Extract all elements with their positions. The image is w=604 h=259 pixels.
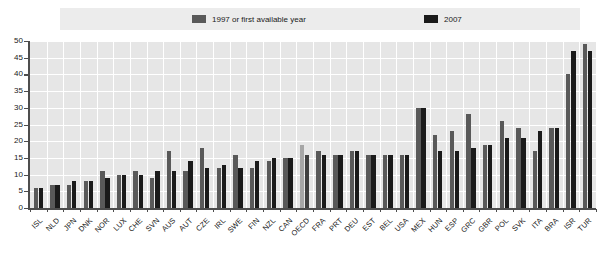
bar: [105, 178, 109, 208]
bar: [183, 171, 187, 208]
x-axis-label: ISL: [30, 216, 45, 231]
bar-group: [97, 41, 114, 208]
x-axis-label: DNK: [77, 216, 95, 234]
x-axis-label: SVK: [510, 216, 527, 233]
x-axis-tick-mark: [47, 209, 48, 212]
bar-group: [246, 41, 263, 208]
x-axis-label: HUN: [426, 216, 444, 234]
x-axis-label: TUR: [576, 216, 593, 233]
x-axis-tick-mark: [97, 209, 98, 212]
x-axis-label-cell: DEU: [346, 214, 363, 259]
y-axis-tick-mark: [24, 158, 28, 159]
y-axis-tick-mark: [24, 191, 28, 192]
bar: [117, 175, 121, 208]
bar: [305, 155, 309, 208]
bar: [89, 181, 93, 208]
bar: [388, 155, 392, 208]
x-axis-tick-mark: [446, 209, 447, 212]
y-axis-tick-mark: [24, 74, 28, 75]
bar-group: [30, 41, 47, 208]
legend-swatch-2007-icon: [424, 15, 438, 23]
bar: [34, 188, 38, 208]
x-axis-label: BRA: [543, 216, 560, 233]
bar: [255, 161, 259, 208]
bar-group: [396, 41, 413, 208]
bar-group: [47, 41, 64, 208]
x-axis-label-cell: BEL: [379, 214, 396, 259]
y-axis-tick-label: 5: [1, 187, 23, 195]
bar-group: [429, 41, 446, 208]
x-axis-label: AUT: [177, 216, 194, 233]
x-axis-tick-mark: [180, 209, 181, 212]
x-axis-label-cell: CHE: [130, 214, 147, 259]
bar-group: [296, 41, 313, 208]
x-axis-label-cell: NZL: [263, 214, 280, 259]
x-axis-tick-mark: [346, 209, 347, 212]
y-axis-tick-mark: [24, 141, 28, 142]
x-axis-label-cell: ISR: [563, 214, 580, 259]
bar-group: [496, 41, 513, 208]
bar-group: [363, 41, 380, 208]
x-axis-label: GBR: [476, 216, 494, 234]
x-axis-tick-mark: [196, 209, 197, 212]
bar: [205, 168, 209, 208]
x-axis-label-cell: ITA: [529, 214, 546, 259]
bar: [433, 135, 437, 208]
bar: [322, 155, 326, 208]
y-axis-tick-mark: [24, 91, 28, 92]
x-axis-tick-mark: [380, 209, 381, 212]
y-axis-tick-label: 40: [1, 70, 23, 78]
bar-group: [230, 41, 247, 208]
bar-group: [263, 41, 280, 208]
x-axis-label: LUX: [111, 216, 128, 233]
bar: [438, 151, 442, 208]
x-axis-label-cell: NOR: [97, 214, 114, 259]
x-axis-tick-mark: [563, 209, 564, 212]
legend-item-1997: 1997 or first available year: [192, 15, 306, 24]
bar: [100, 171, 104, 208]
x-axis-tick-mark: [496, 209, 497, 212]
bar: [133, 171, 137, 208]
x-axis-label: DEU: [343, 216, 361, 234]
y-axis-tick-mark: [24, 175, 28, 176]
chart-legend: 1997 or first available year 2007: [60, 8, 580, 30]
x-axis-tick-mark: [513, 209, 514, 212]
bar: [316, 151, 320, 208]
x-axis-tick-mark: [463, 209, 464, 212]
x-axis-label-cell: BRA: [546, 214, 563, 259]
x-axis-tick-mark: [413, 209, 414, 212]
legend-swatch-1997-icon: [192, 15, 206, 23]
x-axis-label-cell: AUS: [163, 214, 180, 259]
y-axis-tick-label: 0: [1, 204, 23, 212]
bar: [450, 131, 454, 208]
x-axis-label-cell: NLD: [47, 214, 64, 259]
legend-item-2007: 2007: [424, 15, 462, 24]
bar: [139, 175, 143, 208]
x-axis-tick-mark: [596, 209, 597, 212]
bar: [288, 158, 292, 208]
bar: [400, 155, 404, 208]
chart-plot-area: 50454035302520151050 ISLNLDJPNDNKNORLUXC…: [0, 36, 604, 259]
x-axis-label: BEL: [378, 216, 395, 233]
bar: [455, 151, 459, 208]
x-axis-label: NOR: [93, 216, 111, 234]
x-axis-label: EST: [361, 216, 378, 233]
x-axis-tick-mark: [246, 209, 247, 212]
bar: [217, 168, 221, 208]
bar-group: [529, 41, 546, 208]
y-axis-tick-label: 35: [1, 87, 23, 95]
x-axis-tick-mark: [163, 209, 164, 212]
bar: [272, 158, 276, 208]
y-axis-tick-label: 50: [1, 37, 23, 45]
bar-group: [463, 41, 480, 208]
x-axis-label: GRC: [459, 216, 477, 234]
x-axis-tick-mark: [296, 209, 297, 212]
bar: [39, 188, 43, 208]
x-axis-label-cell: ISL: [30, 214, 47, 259]
bar: [55, 185, 59, 208]
x-axis-label: ITA: [529, 216, 543, 230]
x-axis-label: POL: [493, 216, 510, 233]
x-axis-tick-mark: [80, 209, 81, 212]
x-axis-tick-mark: [147, 209, 148, 212]
x-axis-label: MEX: [409, 216, 427, 234]
